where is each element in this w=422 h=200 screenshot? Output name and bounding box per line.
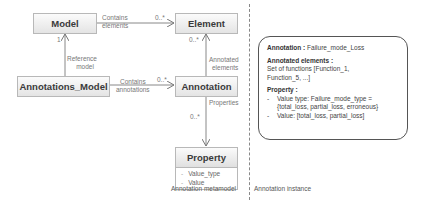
instance-annotated-value-line: Set of functions [Function_1, xyxy=(267,65,399,74)
instance-property-row: Property : Value type: Failure_mode_type… xyxy=(267,86,399,120)
class-annotation: Annotation xyxy=(175,76,238,97)
multiplicity-model: 1 xyxy=(57,36,61,43)
class-property-header: Property xyxy=(176,148,237,168)
instance-property-item: Value type: Failure_mode_type = {total_l… xyxy=(267,95,399,112)
property-item-line: {total_loss, partial_loss, erroneous} xyxy=(277,103,399,112)
relation-label-line: elements xyxy=(102,22,128,30)
multiplicity-annotated-elements: 0..* xyxy=(189,36,199,43)
attribute-value-type: Value_type xyxy=(188,170,220,177)
instance-annotation-value: Failure_mode_Loss xyxy=(307,44,364,51)
class-element: Element xyxy=(175,13,238,34)
instance-annotated-elements-row: Annotated elements : Set of functions [F… xyxy=(267,57,399,83)
class-model-label: Model xyxy=(51,18,78,29)
property-item-line: Value type: Failure_mode_type = xyxy=(277,95,399,104)
attribute-row: -Value_type xyxy=(181,170,232,179)
instance-annotated-label: Annotated elements : xyxy=(267,57,333,64)
multiplicity-element: 0..* xyxy=(155,14,165,21)
class-model: Model xyxy=(33,13,97,34)
class-element-label: Element xyxy=(188,18,225,29)
relation-label-line: annotations xyxy=(116,86,150,94)
instance-annotated-value-line: Function_5, ...] xyxy=(267,74,399,83)
multiplicity-annotation: 0..* xyxy=(157,76,167,83)
relation-label-line: elements xyxy=(209,64,239,72)
caption-instance: Annotation instance xyxy=(254,185,311,192)
class-property-label: Property xyxy=(187,152,226,163)
class-annotation-label: Annotation xyxy=(181,81,231,92)
relation-label-line: Contains xyxy=(116,78,150,86)
section-divider xyxy=(249,4,250,200)
instance-property-item: Value: [total_loss, partial_loss] xyxy=(267,112,399,121)
class-annotations-model: Annotations_Model xyxy=(17,76,110,97)
instance-annotation-row: Annotation : Failure_mode_Loss xyxy=(267,44,399,53)
instance-annotation-label: Annotation : xyxy=(267,44,305,51)
class-annotations-model-label: Annotations_Model xyxy=(19,81,107,92)
instance-property-label: Property : xyxy=(267,86,298,93)
relation-contains-elements-label: Contains elements xyxy=(102,14,128,30)
relation-label-line: Reference xyxy=(67,55,97,63)
class-property: Property -Value_type -Value xyxy=(175,147,238,190)
relation-label-line: Contains xyxy=(102,14,128,22)
relation-label-line: Annotated xyxy=(209,56,239,64)
relation-properties-label: Properties xyxy=(209,99,239,107)
relation-reference-model-label: Reference model xyxy=(67,55,97,71)
annotation-instance-box: Annotation : Failure_mode_Loss Annotated… xyxy=(258,36,408,140)
multiplicity-property: 0..* xyxy=(190,113,200,120)
relation-label-line: model xyxy=(67,63,97,71)
relation-contains-annotations-label: Contains annotations xyxy=(116,78,150,94)
instance-property-list: Value type: Failure_mode_type = {total_l… xyxy=(267,95,399,121)
caption-metamodel: Annotation metamodel xyxy=(171,185,236,192)
property-item-line: Value: [total_loss, partial_loss] xyxy=(277,112,399,121)
relation-annotated-elements-label: Annotated elements xyxy=(209,56,239,72)
